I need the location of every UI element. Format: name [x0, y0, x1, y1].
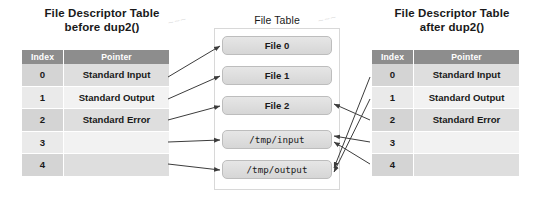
cell-index: 2 [372, 109, 414, 132]
cell-index: 3 [372, 131, 414, 154]
dup2-diagram: File Descriptor Table before dup2() File… [0, 0, 549, 200]
table-row: 0 Standard Input [22, 64, 169, 86]
table-row: 1 Standard Output [372, 86, 519, 109]
table-row: 3 [372, 131, 519, 154]
table-row: 2 Standard Error [22, 109, 169, 132]
cell-pointer [64, 154, 170, 177]
left-title-line2: before dup2() [14, 20, 190, 34]
right-panel-title: File Descriptor Table after dup2() [364, 6, 540, 35]
table-row: 3 [22, 131, 169, 154]
connector-before-4 [168, 164, 220, 170]
table-header-row: Index Pointer [372, 50, 519, 64]
cell-pointer [64, 131, 170, 154]
cell-pointer: Standard Output [414, 86, 520, 109]
cell-index: 1 [372, 86, 414, 109]
connector-before-0 [168, 46, 220, 77]
file-entry-4: /tmp/output [222, 160, 332, 179]
cell-index: 2 [22, 109, 64, 132]
cell-pointer: Standard Output [64, 86, 170, 109]
cell-pointer [414, 154, 520, 177]
cell-pointer: Standard Input [64, 64, 170, 86]
table-row: 4 [22, 154, 169, 177]
file-entry-1: File 1 [222, 66, 332, 85]
left-title-line1: File Descriptor Table [14, 6, 190, 20]
cell-index: 1 [22, 86, 64, 109]
table-row: 2 Standard Error [372, 109, 519, 132]
table-header-row: Index Pointer [22, 50, 169, 64]
table-row: 0 Standard Input [372, 64, 519, 86]
right-title-line2: after dup2() [364, 20, 540, 34]
header-index: Index [22, 50, 64, 64]
cell-pointer: Standard Error [64, 109, 170, 132]
cell-pointer: Standard Error [414, 109, 520, 132]
fd-table-before: Index Pointer 0 Standard Input 1 Standar… [22, 50, 169, 177]
file-entry-3: /tmp/input [222, 130, 332, 149]
connector-before-1 [168, 76, 220, 99]
connector-before-3 [168, 140, 220, 142]
connector-before-2 [168, 106, 220, 120]
cell-index: 3 [22, 131, 64, 154]
header-pointer: Pointer [64, 50, 170, 64]
table-row: 1 Standard Output [22, 86, 169, 109]
cell-index: 4 [22, 154, 64, 177]
cell-pointer [414, 131, 520, 154]
header-pointer: Pointer [414, 50, 520, 64]
left-panel-title: File Descriptor Table before dup2() [14, 6, 190, 35]
cell-index: 4 [372, 154, 414, 177]
cell-pointer: Standard Input [414, 64, 520, 86]
fd-table-after: Index Pointer 0 Standard Input 1 Standar… [372, 50, 519, 177]
file-entry-2: File 2 [222, 96, 332, 115]
table-row: 4 [372, 154, 519, 177]
cell-index: 0 [22, 64, 64, 86]
file-entry-0: File 0 [222, 36, 332, 55]
cell-index: 0 [372, 64, 414, 86]
header-index: Index [372, 50, 414, 64]
right-title-line1: File Descriptor Table [364, 6, 540, 20]
